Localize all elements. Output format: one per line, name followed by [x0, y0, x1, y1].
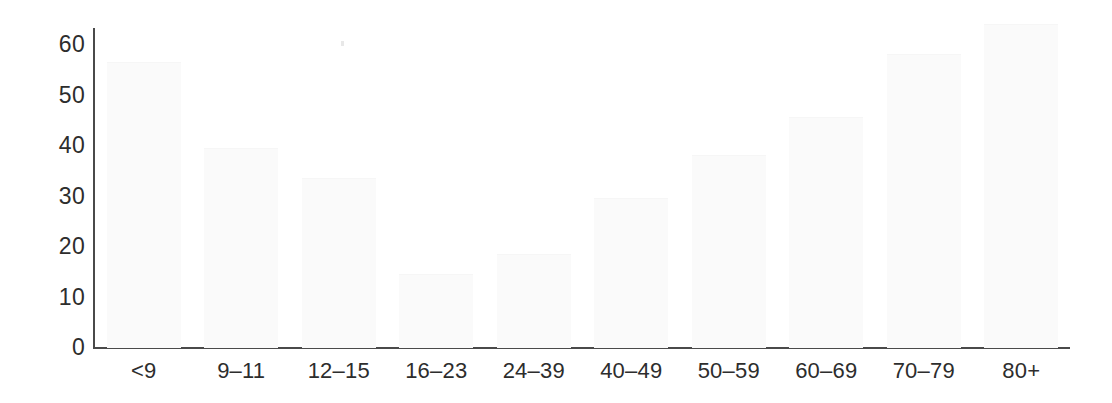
bar — [399, 274, 473, 348]
x-axis-tick-label: 60–69 — [778, 356, 876, 386]
x-axis-labels: <99–1112–1516–2324–3940–4950–5960–6970–7… — [95, 356, 1070, 396]
bar-slot — [485, 0, 583, 348]
y-axis-tick-label: 10 — [7, 286, 85, 309]
y-axis-tick-label: 60 — [7, 33, 85, 56]
bar-slot — [290, 0, 388, 348]
x-axis-tick-label: 9–11 — [193, 356, 291, 386]
y-axis-tick-label: 20 — [7, 235, 85, 258]
x-axis-tick-label: 16–23 — [388, 356, 486, 386]
bar-slot — [193, 0, 291, 348]
bar — [204, 148, 278, 348]
bar — [594, 198, 668, 348]
bar — [984, 24, 1058, 348]
x-axis-tick-label: 50–59 — [680, 356, 778, 386]
y-axis-tick-label: 50 — [7, 84, 85, 107]
bar — [692, 155, 766, 348]
x-axis-tick-label: 40–49 — [583, 356, 681, 386]
bar-slot — [95, 0, 193, 348]
scan-speck — [341, 41, 344, 46]
y-axis-tick-label: 30 — [7, 185, 85, 208]
bar — [887, 54, 961, 348]
x-axis-tick-label: <9 — [95, 356, 193, 386]
x-axis-tick-label: 24–39 — [485, 356, 583, 386]
bar — [302, 178, 376, 348]
bar-series — [95, 0, 1070, 348]
bar-slot — [388, 0, 486, 348]
bar-chart: 0102030405060 <99–1112–1516–2324–3940–49… — [0, 0, 1112, 403]
x-axis-tick-label: 12–15 — [290, 356, 388, 386]
bar-slot — [875, 0, 973, 348]
bar — [789, 117, 863, 348]
x-axis-tick-label: 70–79 — [875, 356, 973, 386]
y-axis-tick-label: 0 — [7, 336, 85, 359]
bar-slot — [583, 0, 681, 348]
x-axis-tick-label: 80+ — [973, 356, 1071, 386]
y-axis-labels: 0102030405060 — [0, 0, 85, 403]
y-axis-tick-label: 40 — [7, 134, 85, 157]
bar — [497, 254, 571, 348]
bar — [107, 62, 181, 348]
bar-slot — [778, 0, 876, 348]
bar-slot — [973, 0, 1071, 348]
bar-slot — [680, 0, 778, 348]
